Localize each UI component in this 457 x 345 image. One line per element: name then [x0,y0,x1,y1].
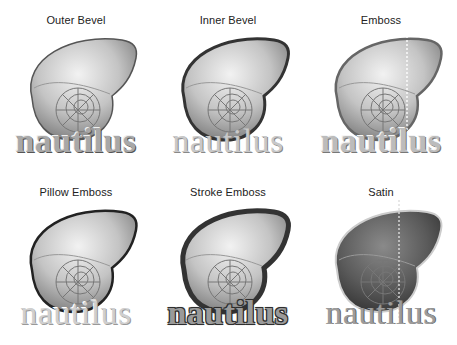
panel-satin: Satin nautilus [305,172,457,344]
panel-pillow-emboss: Pillow Emboss nautilus [0,172,152,344]
panel-title: Outer Bevel [0,14,152,26]
nautilus-wordmark: nautilus [0,124,152,158]
nautilus-wordmark: nautilus [305,124,457,158]
panel-title: Emboss [305,14,457,26]
nautilus-wordmark: nautilus [0,296,152,330]
panel-title: Pillow Emboss [0,186,152,198]
panel-title: Inner Bevel [152,14,304,26]
effects-grid: Outer Bevel nautilus Inner Bevel nautilu… [0,0,457,345]
panel-outer-bevel: Outer Bevel nautilus [0,0,152,172]
panel-emboss: Emboss nautilus [305,0,457,172]
panel-title: Stroke Emboss [152,186,304,198]
panel-inner-bevel: Inner Bevel nautilus [152,0,304,172]
nautilus-wordmark: nautilus [152,296,304,330]
panel-stroke-emboss: Stroke Emboss nautilus [152,172,304,344]
panel-title: Satin [305,186,457,198]
nautilus-wordmark: nautilus [152,124,304,158]
nautilus-wordmark: nautilus [305,296,457,330]
